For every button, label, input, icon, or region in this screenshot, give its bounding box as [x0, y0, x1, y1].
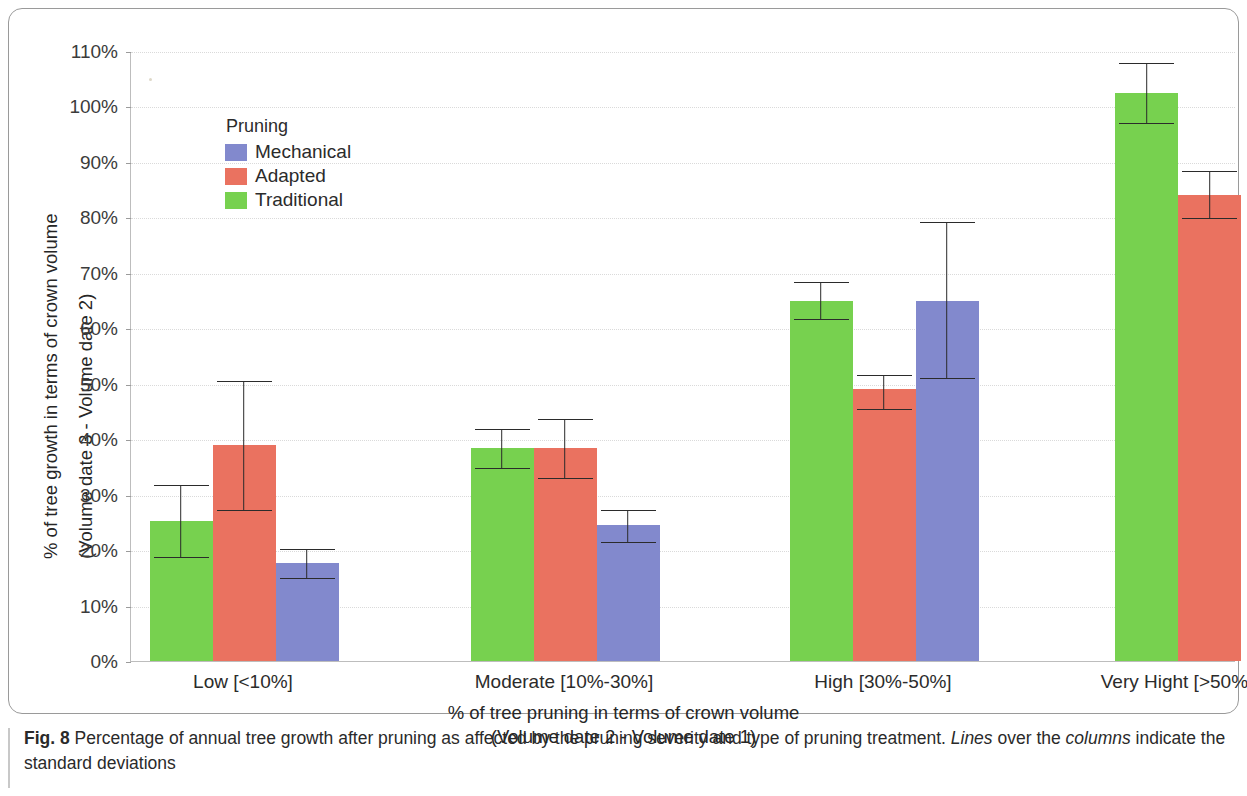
- y-axis-tick: [126, 218, 131, 219]
- y-axis-tick: [126, 52, 131, 53]
- error-bar-cap-lower: [920, 378, 975, 379]
- error-bar-stem: [883, 375, 884, 410]
- legend-item-traditional: Traditional: [225, 188, 351, 212]
- legend-label: Adapted: [255, 165, 326, 187]
- error-bar-adapted-2: [534, 419, 597, 479]
- x-tick-label: Very Hight [>50%]: [1101, 671, 1247, 693]
- y-tick-label: 10%: [0, 596, 118, 618]
- gridline: [131, 440, 1235, 441]
- gridline: [131, 52, 1235, 53]
- error-bar-stem: [564, 419, 565, 479]
- y-tick-label: 40%: [0, 429, 118, 451]
- y-tick-label: 30%: [0, 485, 118, 507]
- error-bar-traditional-3: [790, 282, 853, 320]
- error-bar-cap-lower: [601, 542, 656, 543]
- legend-swatch-adapted: [225, 168, 247, 185]
- gridline: [131, 385, 1235, 386]
- y-axis-tick: [126, 107, 131, 108]
- x-tick-label: Low [<10%]: [193, 671, 293, 693]
- caption-text-2: over the: [993, 728, 1066, 748]
- bar-adapted-2: [534, 448, 597, 662]
- y-axis-tick: [126, 385, 131, 386]
- error-bar-cap-lower: [794, 319, 849, 320]
- error-bar-cap-upper: [601, 510, 656, 511]
- legend-item-adapted: Adapted: [225, 164, 351, 188]
- error-bar-stem: [1146, 63, 1147, 124]
- error-bar-adapted-1: [213, 381, 276, 510]
- bar-traditional-2: [471, 448, 534, 662]
- bar-adapted-3: [853, 389, 916, 661]
- y-axis-tick: [126, 551, 131, 552]
- bar-mechanical-2: [597, 525, 660, 661]
- x-tick-label: High [30%-50%]: [814, 671, 951, 693]
- error-bar-cap-upper: [217, 381, 272, 382]
- y-axis-tick: [126, 163, 131, 164]
- x-tick-label: Moderate [10%-30%]: [475, 671, 654, 693]
- error-bar-cap-upper: [280, 549, 335, 550]
- y-axis-tick: [126, 607, 131, 608]
- bar-traditional-4: [1115, 93, 1178, 661]
- gridline: [131, 274, 1235, 275]
- legend-label: Mechanical: [255, 141, 351, 163]
- error-bar-cap-lower: [857, 409, 912, 410]
- y-tick-label: 90%: [0, 152, 118, 174]
- y-tick-label: 110%: [0, 41, 118, 63]
- y-axis-tick: [126, 440, 131, 441]
- error-bar-cap-lower: [217, 510, 272, 511]
- caption-figure-number: Fig. 8: [24, 728, 70, 748]
- y-tick-label: 20%: [0, 540, 118, 562]
- y-axis-tick: [126, 274, 131, 275]
- error-bar-stem: [820, 282, 821, 320]
- error-bar-cap-lower: [280, 578, 335, 579]
- error-bar-cap-upper: [794, 282, 849, 283]
- error-bar-stem: [306, 549, 307, 578]
- error-bar-mechanical-3: [916, 222, 979, 379]
- error-bar-cap-upper: [857, 375, 912, 376]
- error-bar-traditional-2: [471, 429, 534, 469]
- legend-label: Traditional: [255, 189, 343, 211]
- y-axis-tick: [126, 496, 131, 497]
- legend-swatch-traditional: [225, 192, 247, 209]
- gridline: [131, 329, 1235, 330]
- figure-page: % of tree growth in terms of crown volum…: [0, 0, 1247, 796]
- legend-item-mechanical: Mechanical: [225, 140, 351, 164]
- error-bar-mechanical-2: [597, 510, 660, 543]
- error-bar-mechanical-1: [276, 549, 339, 578]
- error-bar-stem: [501, 429, 502, 469]
- y-tick-label: 100%: [0, 96, 118, 118]
- error-bar-cap-lower: [538, 478, 593, 479]
- error-bar-cap-upper: [1182, 171, 1237, 172]
- error-bar-cap-upper: [920, 222, 975, 223]
- legend-items: MechanicalAdaptedTraditional: [225, 140, 351, 212]
- error-bar-traditional-4: [1115, 63, 1178, 124]
- y-tick-label: 50%: [0, 374, 118, 396]
- error-bar-cap-lower: [475, 468, 530, 469]
- gridline: [131, 218, 1235, 219]
- y-axis-tick: [126, 662, 131, 663]
- error-bar-cap-upper: [475, 429, 530, 430]
- error-bar-cap-upper: [154, 485, 209, 486]
- error-bar-stem: [180, 485, 181, 559]
- gridline: [131, 107, 1235, 108]
- y-axis-tick: [126, 329, 131, 330]
- gridline: [131, 496, 1235, 497]
- error-bar-adapted-3: [853, 375, 916, 410]
- bar-traditional-3: [790, 301, 853, 661]
- error-bar-cap-lower: [1119, 123, 1174, 124]
- caption-side-rule: [8, 728, 10, 788]
- bar-adapted-4: [1178, 195, 1241, 661]
- error-bar-adapted-4: [1178, 171, 1241, 219]
- y-tick-label: 70%: [0, 263, 118, 285]
- error-bar-cap-lower: [1182, 218, 1237, 219]
- y-tick-label: 0%: [0, 651, 118, 673]
- error-bar-cap-lower: [154, 557, 209, 558]
- chart-legend: Pruning MechanicalAdaptedTraditional: [225, 116, 351, 212]
- caption-italic-columns: columns: [1066, 728, 1131, 748]
- error-bar-traditional-1: [150, 485, 213, 559]
- figure-frame: % of tree growth in terms of crown volum…: [8, 8, 1239, 714]
- error-bar-cap-upper: [538, 419, 593, 420]
- error-bar-stem: [243, 381, 244, 510]
- y-tick-label: 60%: [0, 318, 118, 340]
- figure-caption: Fig. 8 Percentage of annual tree growth …: [24, 726, 1230, 776]
- error-bar-stem: [627, 510, 628, 543]
